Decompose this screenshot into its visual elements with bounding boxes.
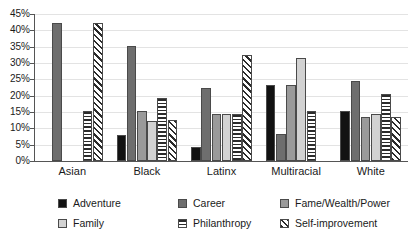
y-axis-tick-label: 30% — [10, 58, 30, 68]
y-axis-tick-label: 10% — [10, 123, 30, 133]
legend-item-career[interactable]: Career — [178, 197, 225, 209]
y-axis-tick-label: 25% — [10, 74, 30, 84]
bar-group-latinx — [184, 14, 259, 161]
y-axis-tick-label: 45% — [10, 9, 30, 19]
bar-white-family — [371, 114, 381, 161]
legend-item-family[interactable]: Family — [58, 217, 104, 229]
adventure-swatch — [58, 199, 67, 208]
bar-group-multiracial — [259, 14, 334, 161]
fame-swatch — [280, 199, 289, 208]
bar-group-white — [333, 14, 408, 161]
career-swatch — [178, 199, 187, 208]
self-improvement-swatch — [280, 219, 289, 228]
y-axis-tick-label: 35% — [10, 42, 30, 52]
bar-latinx-adventure — [191, 147, 201, 161]
bar-group-black — [110, 14, 185, 161]
x-axis-label-multiracial: Multiracial — [259, 165, 334, 177]
legend-item-fame-wealth-power[interactable]: Fame/Wealth/Power — [280, 197, 390, 209]
philanthropy-swatch — [178, 219, 187, 228]
bar-black-career — [127, 46, 137, 161]
bar-white-self-improvement — [391, 117, 401, 161]
bar-latinx-self-improvement — [242, 55, 252, 161]
x-axis-line — [34, 161, 408, 162]
bar-white-adventure — [340, 111, 350, 161]
bar-black-philanthropy — [157, 98, 167, 161]
bar-white-fame-wealth-power — [361, 117, 371, 161]
chart-legend: AdventureCareerFame/Wealth/PowerFamilyPh… — [0, 195, 412, 239]
bar-multiracial-career — [276, 134, 286, 161]
bar-asian-career — [52, 23, 62, 161]
plot-area: 0%5%10%15%20%25%30%35%40%45% AsianBlackL… — [0, 0, 412, 180]
family-swatch — [58, 219, 67, 228]
bar-latinx-philanthropy — [232, 114, 242, 161]
y-axis-tick-label: 0% — [16, 156, 30, 166]
x-axis-label-black: Black — [110, 165, 185, 177]
y-axis: 0%5%10%15%20%25%30%35%40%45% — [0, 0, 34, 180]
legend-label: Self-improvement — [295, 217, 377, 229]
legend-item-adventure[interactable]: Adventure — [58, 197, 121, 209]
legend-label: Career — [193, 197, 225, 209]
bar-latinx-family — [222, 114, 232, 161]
bar-asian-self-improvement — [93, 23, 103, 161]
bar-black-family — [147, 121, 157, 161]
legend-label: Philanthropy — [193, 217, 251, 229]
bar-white-career — [351, 81, 361, 161]
legend-label: Family — [73, 217, 104, 229]
legend-item-philanthropy[interactable]: Philanthropy — [178, 217, 251, 229]
x-axis-label-asian: Asian — [35, 165, 110, 177]
bar-asian-philanthropy — [83, 111, 93, 161]
bar-multiracial-adventure — [266, 85, 276, 161]
bar-multiracial-philanthropy — [307, 111, 317, 161]
bar-multiracial-fame-wealth-power — [286, 85, 296, 161]
y-axis-tick-label: 40% — [10, 25, 30, 35]
bar-multiracial-family — [296, 58, 306, 161]
x-axis-label-white: White — [333, 165, 408, 177]
x-axis: AsianBlackLatinxMultiracialWhite — [35, 165, 408, 185]
bar-group-asian — [35, 14, 110, 161]
legend-label: Adventure — [73, 197, 121, 209]
legend-item-self-improvement[interactable]: Self-improvement — [280, 217, 377, 229]
bar-latinx-career — [201, 88, 211, 161]
bar-white-philanthropy — [381, 94, 391, 161]
legend-label: Fame/Wealth/Power — [295, 197, 390, 209]
y-axis-tick-label: 20% — [10, 91, 30, 101]
bar-black-fame-wealth-power — [137, 111, 147, 161]
bar-black-self-improvement — [168, 120, 178, 161]
y-axis-tick-label: 5% — [16, 140, 30, 150]
x-axis-label-latinx: Latinx — [184, 165, 259, 177]
bar-black-adventure — [117, 135, 127, 161]
grouped-bar-chart: 0%5%10%15%20%25%30%35%40%45% AsianBlackL… — [0, 0, 412, 243]
bar-latinx-fame-wealth-power — [212, 114, 222, 161]
y-axis-tick-label: 15% — [10, 107, 30, 117]
bars-layer — [35, 14, 408, 161]
